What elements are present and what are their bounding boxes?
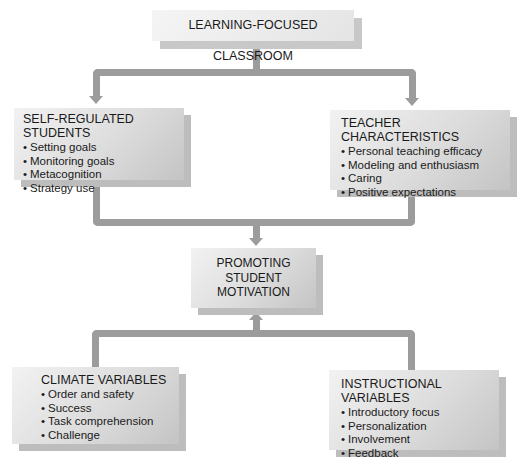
connector-right-drop <box>409 69 416 98</box>
connector-merge-bar <box>93 219 415 226</box>
connector-left-drop <box>93 69 100 96</box>
connector-bottom-bar <box>92 330 415 337</box>
arrow-down-left-icon <box>89 96 103 104</box>
list-item: Success <box>41 402 179 416</box>
list-item: Metacognition <box>23 168 184 182</box>
list-item: Modeling and enthusiasm <box>341 159 510 173</box>
list-item: Feedback <box>341 447 499 461</box>
instructional-variables-title: INSTRUCTIONAL VARIABLES <box>341 377 499 405</box>
list-item: Monitoring goals <box>23 155 184 169</box>
list-item: Involvement <box>341 433 499 447</box>
instructional-variables-box: INSTRUCTIONAL VARIABLES Introductory foc… <box>329 370 499 450</box>
climate-variables-box: CLIMATE VARIABLES Order and safety Succe… <box>12 367 179 444</box>
arrow-up-center-icon <box>249 312 263 320</box>
list-item: Introductory focus <box>341 406 499 420</box>
self-regulated-students-title: SELF-REGULATED STUDENTS <box>23 112 184 140</box>
list-item: Caring <box>341 172 510 186</box>
teacher-characteristics-box: TEACHER CHARACTERISTICS Personal teachin… <box>330 110 510 190</box>
learning-focused-classroom-box: LEARNING-FOCUSED CLASSROOM <box>152 10 354 41</box>
learning-focused-classroom-title: LEARNING-FOCUSED CLASSROOM <box>152 10 354 72</box>
list-item: Setting goals <box>23 141 184 155</box>
list-item: Positive expectations <box>341 186 510 200</box>
center-line-2: STUDENT <box>191 271 316 286</box>
self-regulated-students-list: Setting goals Monitoring goals Metacogni… <box>23 141 184 195</box>
list-item: Personal teaching efficacy <box>341 145 510 159</box>
list-item: Strategy use <box>23 182 184 196</box>
list-item: Challenge <box>41 429 179 443</box>
arrow-down-right-icon <box>405 98 419 106</box>
center-line-1: PROMOTING <box>191 256 316 271</box>
teacher-characteristics-list: Personal teaching efficacy Modeling and … <box>341 145 510 199</box>
teacher-characteristics-title: TEACHER CHARACTERISTICS <box>341 116 510 144</box>
self-regulated-students-box: SELF-REGULATED STUDENTS Setting goals Mo… <box>14 108 184 180</box>
climate-variables-list: Order and safety Success Task comprehens… <box>41 388 179 442</box>
promoting-student-motivation-box: PROMOTING STUDENT MOTIVATION <box>191 248 316 308</box>
arrow-down-center-icon <box>249 238 263 246</box>
connector-merge-stem <box>253 226 260 238</box>
list-item: Task comprehension <box>41 415 179 429</box>
center-line-3: MOTIVATION <box>191 285 316 300</box>
list-item: Order and safety <box>41 388 179 402</box>
instructional-variables-list: Introductory focus Personalization Invol… <box>341 406 499 460</box>
connector-bottom-left-drop <box>92 330 99 368</box>
connector-bottom-right-drop <box>408 330 415 372</box>
list-item: Personalization <box>341 420 499 434</box>
climate-variables-title: CLIMATE VARIABLES <box>41 373 179 387</box>
